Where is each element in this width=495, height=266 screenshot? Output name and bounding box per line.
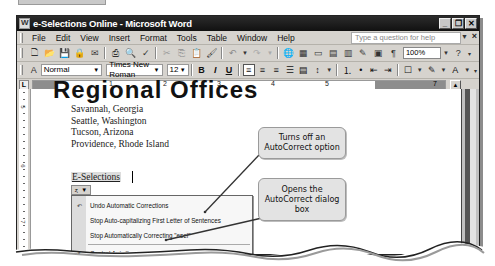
callout-text: Turns off an AutoCorrect option	[259, 133, 345, 153]
callout-turns-off-option: Turns off an AutoCorrect option	[258, 127, 346, 159]
undo-icon: ↶	[72, 202, 86, 209]
callout-leader-lines	[0, 0, 495, 266]
screenshot-canvas: e-Selections Online - Microsoft Word _ ❐…	[0, 0, 495, 266]
callout-text: Opens the AutoCorrect dialog box	[259, 185, 345, 215]
callout-opens-dialog: Opens the AutoCorrect dialog box	[258, 178, 346, 221]
